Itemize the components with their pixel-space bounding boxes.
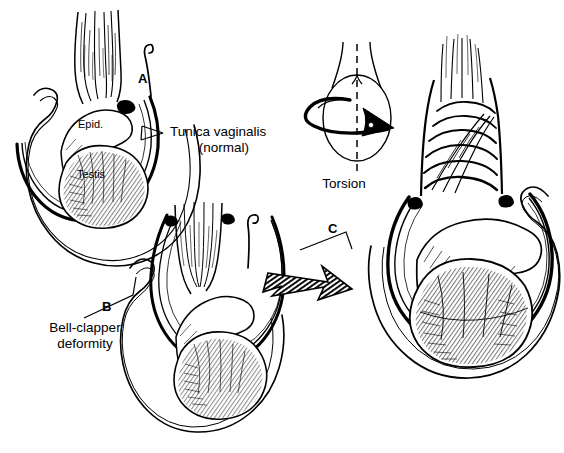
- panel-c-group: [369, 34, 560, 378]
- panel-a-cord-entry: [117, 100, 136, 114]
- testis-label: Testis: [77, 168, 105, 180]
- bell-clapper-label-line2: deformity: [30, 336, 140, 351]
- tunica-vaginalis-label-line2: (normal): [170, 140, 278, 155]
- panel-b-vas-hook: [248, 215, 258, 268]
- panel-b-group: [84, 202, 284, 432]
- figure-canvas: A Epid. Testis Tunica vaginalis (normal)…: [0, 0, 564, 453]
- panel-c-leader-line: [300, 232, 352, 250]
- bell-clapper-label-line1: Bell-clapper: [30, 320, 140, 335]
- panel-a-spermatic-cord: [75, 10, 121, 104]
- torsion-diagram-group: [305, 42, 394, 174]
- panel-b-cord-entry-right: [221, 213, 235, 224]
- panel-c-twisted-cord: [421, 34, 502, 196]
- panel-b-testis-shading: [178, 339, 262, 418]
- torsion-cord-left: [332, 42, 343, 88]
- tunica-vaginalis-label-line1: Tunica vaginalis: [170, 124, 266, 139]
- transition-arrow-group: [263, 232, 352, 300]
- transition-block-arrow: [263, 266, 352, 300]
- panel-letter-c: C: [328, 222, 337, 237]
- torsion-arrowhead-eye: [368, 122, 373, 127]
- panel-letter-b: B: [102, 300, 111, 315]
- panel-letter-a: A: [138, 72, 147, 87]
- anatomy-line-drawing: [0, 0, 564, 453]
- torsion-label: Torsion: [318, 176, 370, 191]
- panel-c-cord-entry-left: [407, 197, 422, 210]
- panel-c-cord-entry-right: [498, 195, 513, 208]
- panel-b-spermatic-cord: [175, 202, 222, 294]
- epididymis-label: Epid.: [78, 118, 103, 130]
